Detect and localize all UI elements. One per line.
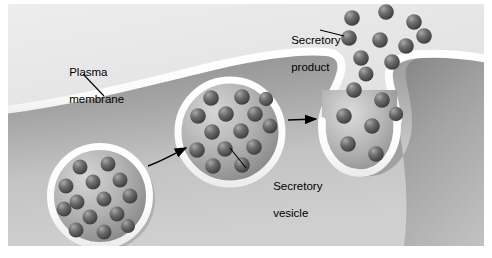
granule bbox=[113, 173, 128, 188]
label-secretory-vesicle-line1: Secretory bbox=[273, 180, 322, 192]
granule bbox=[364, 118, 380, 134]
granule bbox=[378, 4, 394, 20]
granule bbox=[97, 192, 112, 207]
granule bbox=[123, 189, 138, 204]
granule bbox=[70, 195, 85, 210]
granule bbox=[101, 157, 116, 172]
granule bbox=[263, 119, 278, 134]
granule bbox=[86, 175, 101, 190]
granule bbox=[359, 67, 374, 82]
label-secretory-product-line2: product bbox=[291, 61, 329, 73]
granule bbox=[234, 89, 250, 105]
granule bbox=[259, 92, 273, 106]
granule bbox=[73, 160, 88, 175]
granule bbox=[384, 54, 400, 70]
exocytosis-illustration: Plasma membrane Secretory product Secret… bbox=[8, 4, 484, 246]
granule bbox=[336, 108, 352, 124]
label-plasma-membrane-line2: membrane bbox=[69, 93, 124, 105]
figure-canvas: Plasma membrane Secretory product Secret… bbox=[0, 0, 492, 258]
granule bbox=[346, 82, 362, 98]
granule bbox=[406, 14, 422, 30]
granule bbox=[398, 38, 414, 54]
granule bbox=[69, 223, 84, 238]
label-plasma-membrane: Plasma membrane bbox=[50, 52, 124, 120]
label-plasma-membrane-line1: Plasma bbox=[69, 66, 107, 78]
granule bbox=[247, 106, 263, 122]
granule bbox=[59, 179, 74, 194]
granule bbox=[389, 107, 403, 121]
granule bbox=[374, 92, 390, 108]
label-secretory-vesicle-line2: vesicle bbox=[273, 207, 308, 219]
granule bbox=[372, 32, 388, 48]
granule bbox=[234, 157, 250, 173]
label-secretory-product: Secretory product bbox=[272, 20, 340, 88]
exocytosis-svg bbox=[8, 4, 484, 246]
granule bbox=[205, 158, 221, 174]
granule bbox=[344, 10, 360, 26]
granule bbox=[218, 106, 234, 122]
arrow-vesicle-fusion bbox=[288, 119, 316, 120]
granule bbox=[110, 207, 125, 222]
granule bbox=[203, 90, 219, 106]
granule bbox=[341, 30, 357, 46]
granule bbox=[368, 146, 384, 162]
granule bbox=[83, 210, 98, 225]
label-secretory-vesicle: Secretory vesicle bbox=[254, 166, 322, 234]
granule bbox=[246, 139, 262, 155]
granule bbox=[204, 124, 220, 140]
granule bbox=[233, 123, 249, 139]
label-secretory-product-line1: Secretory bbox=[291, 34, 340, 46]
granule bbox=[416, 28, 432, 44]
granule bbox=[190, 108, 206, 124]
granule bbox=[353, 50, 369, 66]
granule bbox=[57, 202, 72, 217]
granule bbox=[340, 136, 356, 152]
granule bbox=[97, 225, 112, 240]
granule bbox=[121, 219, 135, 233]
granule bbox=[189, 142, 205, 158]
